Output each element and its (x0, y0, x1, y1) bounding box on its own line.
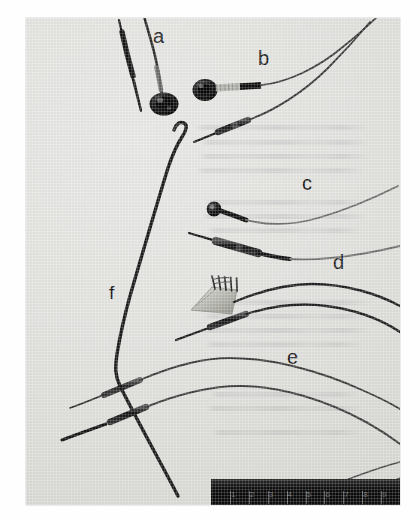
ruler-tick-label: 8 (363, 490, 367, 499)
electrode-d-comb-connector (191, 276, 400, 314)
electrode-c-pin-connector (189, 233, 400, 259)
panel-label-c: c (302, 173, 312, 193)
electrode-a-needle-probe (119, 20, 141, 111)
electrode-b-disc-with-shielded-lead (193, 18, 381, 101)
panel-label-e: e (287, 347, 298, 367)
figure-root: a b c d e f 123456789 (0, 0, 420, 522)
panel-label-a: a (153, 26, 164, 46)
ruler-tick-label: 1 (231, 490, 235, 499)
panel-label-d: d (333, 252, 344, 272)
ruler-tick-label: 7 (344, 490, 348, 499)
electrode-b-subdermal-needle (194, 22, 370, 142)
ruler-tick-label: 9 (382, 490, 386, 499)
ruler-tick-label: 6 (325, 490, 329, 499)
ruler-tick-label: 5 (307, 490, 311, 499)
scale-ruler: 123456789 (211, 479, 400, 505)
panel-label-f: f (109, 283, 114, 303)
panel-label-b: b (258, 48, 269, 68)
electrode-photograph-plate: a b c d e f 123456789 (26, 18, 400, 505)
electrode-e-needle-lower (62, 386, 400, 444)
electrode-f-long-bent-probe (116, 122, 186, 496)
ruler-tick-label: 3 (269, 490, 273, 499)
ruler-tick-label: 4 (288, 490, 292, 499)
ruler-tick-label: 2 (250, 490, 254, 499)
